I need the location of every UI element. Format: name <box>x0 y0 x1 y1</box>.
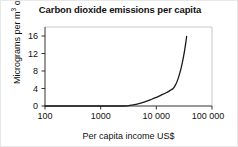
plot-area: 0 4 8 12 16 100 1000 10 000 100 000 <box>1 1 238 147</box>
y-tick-label: 0 <box>33 101 38 111</box>
y-axis-ticks <box>42 36 46 106</box>
y-axis-tick-labels: 0 4 8 12 16 <box>28 31 38 111</box>
data-series-line <box>45 36 187 106</box>
y-tick-label: 12 <box>28 49 38 59</box>
y-tick-label: 16 <box>28 31 38 41</box>
x-tick-label: 1000 <box>91 111 111 121</box>
x-tick-label: 100 <box>37 111 52 121</box>
y-tick-label: 8 <box>33 66 38 76</box>
x-tick-label: 100 000 <box>192 111 225 121</box>
y-tick-label: 4 <box>33 84 38 94</box>
chart-figure: Carbon dioxide emissions per capita Micr… <box>0 0 238 147</box>
x-tick-label: 10 000 <box>143 111 171 121</box>
x-axis-tick-labels: 100 1000 10 000 100 000 <box>37 111 224 121</box>
